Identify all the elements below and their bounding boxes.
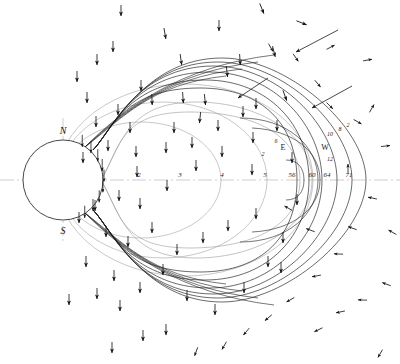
- flow-arrow-shaft: [314, 328, 322, 332]
- flow-arrow-shaft: [265, 315, 272, 321]
- flow-arrows: [69, 3, 396, 357]
- field-label-2: 6: [275, 138, 278, 144]
- equator-tick-label-3: 5: [263, 171, 267, 179]
- flow-arrow-7: [296, 21, 306, 25]
- shell-pointer-2: [238, 78, 268, 98]
- equator-tick-label-0: 2: [137, 171, 141, 179]
- diverted-flow-arrow-16: [382, 283, 390, 286]
- south-cusp-line-3: [85, 213, 274, 305]
- flow-arrow-4: [180, 54, 182, 65]
- field-label-5: 8: [339, 126, 342, 132]
- shell-pointer-0: [296, 30, 338, 52]
- equator-tick-label-6: 64: [324, 171, 332, 179]
- pole-label-south: S: [61, 225, 66, 236]
- diverted-flow-arrow-3: [354, 120, 362, 125]
- diverted-flow-arrow-12: [287, 298, 295, 303]
- diverted-flow-arrow-20: [378, 350, 383, 358]
- flow-arrow-shaft: [296, 21, 306, 25]
- magnetosphere-diagram: NS234556606471EW62108212: [0, 0, 400, 364]
- equator-tick-label-1: 3: [177, 171, 182, 179]
- diverted-flow-arrow-0: [327, 45, 335, 49]
- flow-arrow-shaft: [260, 3, 264, 13]
- field-label-4: 10: [327, 131, 333, 137]
- flow-arrow-shaft: [195, 347, 198, 355]
- flow-arrow-shaft: [204, 94, 205, 105]
- flow-arrow-14: [240, 54, 241, 65]
- pole-label-north: N: [59, 125, 68, 136]
- diverted-flow-arrow-18: [336, 311, 345, 313]
- equator-tick-label-2: 4: [220, 171, 224, 179]
- flow-arrow-shaft: [240, 54, 241, 65]
- diverted-flow-arrow-5: [315, 80, 321, 87]
- flow-arrow-shaft: [283, 90, 287, 100]
- diverted-flow-arrow-14: [243, 328, 249, 335]
- flow-arrow-5: [226, 66, 227, 77]
- flow-arrow-shaft: [368, 197, 377, 199]
- diverted-flow-arrow-4: [326, 102, 332, 108]
- flow-arrow-shaft: [180, 54, 182, 65]
- flow-arrow-shaft: [315, 80, 321, 87]
- flow-arrow-shaft: [326, 102, 332, 108]
- field-label-0: E: [281, 143, 286, 152]
- equator-tick-label-4: 56: [289, 171, 297, 179]
- diverted-flow-arrow-2: [381, 146, 390, 147]
- flow-arrow-1: [164, 28, 166, 39]
- flow-arrow-shaft: [348, 227, 356, 230]
- equator-tick-label-5: 60: [309, 171, 317, 179]
- flow-arrow-shaft: [183, 92, 184, 103]
- flow-arrow-shaft: [363, 59, 372, 61]
- flow-arrow-shaft: [199, 112, 200, 123]
- flow-arrow-13: [204, 94, 205, 105]
- field-label-6: 2: [347, 122, 350, 128]
- diverted-flow-arrow-1: [363, 59, 372, 61]
- shell-pointer-1: [312, 86, 352, 108]
- diverted-flow-arrow-6: [293, 54, 298, 61]
- flow-arrow-shaft: [327, 45, 335, 49]
- north-cusp-line-3: [85, 55, 274, 147]
- flow-arrow-shaft: [382, 283, 390, 286]
- flow-arrow-shaft: [269, 44, 274, 52]
- flow-arrow-shaft: [381, 146, 390, 147]
- field-label-1: W: [321, 143, 329, 152]
- diverted-flow-arrow-26: [389, 230, 397, 235]
- figure-canvas: NS234556606471EW62108212: [0, 0, 400, 364]
- diverted-flow-arrow-8: [348, 227, 356, 230]
- flow-arrow-shaft: [336, 311, 345, 313]
- diverted-flow-arrow-13: [265, 315, 272, 321]
- flow-arrow-shaft: [293, 54, 298, 61]
- flow-arrow-3: [260, 3, 264, 13]
- flow-arrow-shaft: [389, 230, 397, 235]
- diverted-flow-arrow-21: [195, 347, 198, 355]
- diverted-flow-arrow-15: [222, 342, 227, 350]
- flow-arrow-shaft: [287, 298, 295, 303]
- diverted-flow-arrow-25: [370, 105, 375, 113]
- flow-arrow-shaft: [164, 28, 166, 39]
- flow-arrow-19: [199, 112, 200, 123]
- diverted-flow-arrow-19: [314, 328, 322, 332]
- diverted-flow-arrow-9: [368, 197, 377, 199]
- flow-arrow-shaft: [285, 206, 293, 211]
- flow-arrow-32: [283, 90, 287, 100]
- flow-arrow-12: [183, 92, 184, 103]
- flow-arrow-shaft: [354, 120, 362, 125]
- flow-arrow-shaft: [243, 328, 249, 335]
- diverted-flow-arrow-23: [285, 206, 293, 211]
- field-label-3: 2: [262, 151, 265, 157]
- equator-tick-label-7: 71: [346, 171, 353, 179]
- flow-arrow-shaft: [226, 66, 227, 77]
- diverted-flow-arrow-7: [269, 44, 274, 52]
- diverted-flow-arrow-11: [312, 275, 321, 277]
- field-label-7: 12: [327, 156, 333, 162]
- flow-arrow-shaft: [378, 350, 383, 358]
- flow-arrow-shaft: [222, 342, 227, 350]
- flow-arrow-shaft: [312, 275, 321, 277]
- flow-arrow-shaft: [370, 105, 375, 113]
